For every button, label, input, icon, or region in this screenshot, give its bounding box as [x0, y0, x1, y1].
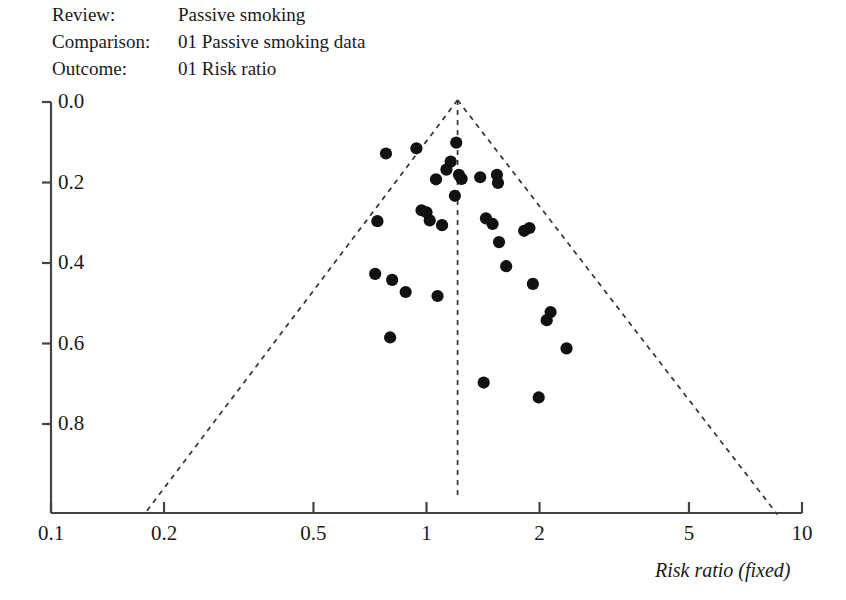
data-point: [450, 137, 462, 149]
x-tick-label: 0.2: [151, 523, 177, 544]
scatter-plot-area: 0.00.20.40.60.8 0.10.20.512510 Risk rati…: [0, 0, 846, 600]
data-point: [449, 190, 461, 202]
data-point: [474, 171, 486, 183]
data-point: [493, 236, 505, 248]
x-tick-label: 10: [792, 523, 813, 544]
data-point: [431, 290, 443, 302]
funnel-guide-lines: [144, 100, 777, 515]
data-point: [440, 164, 452, 176]
data-point: [527, 278, 539, 290]
data-point: [436, 219, 448, 231]
data-point: [560, 342, 572, 354]
data-point: [384, 331, 396, 343]
data-point: [386, 274, 398, 286]
x-axis-title: Risk ratio (fixed): [655, 559, 791, 582]
data-point: [455, 173, 467, 185]
data-point: [400, 286, 412, 298]
data-point: [487, 218, 499, 230]
data-point: [380, 147, 392, 159]
data-point: [410, 142, 422, 154]
y-tick-label: 0.6: [58, 333, 84, 354]
data-point: [500, 260, 512, 272]
data-point: [541, 314, 553, 326]
data-point: [424, 214, 436, 226]
data-point: [371, 215, 383, 227]
data-point: [523, 222, 535, 234]
plot-canvas: [0, 0, 846, 600]
data-point: [478, 376, 490, 388]
funnel-plot-figure: Review: Passive smoking Comparison: 01 P…: [0, 0, 846, 600]
data-point: [492, 177, 504, 189]
x-tick-label: 2: [534, 523, 545, 544]
data-point: [369, 268, 381, 280]
y-tick-label: 0.0: [58, 91, 84, 112]
x-tick-label: 1: [421, 523, 432, 544]
data-point: [533, 391, 545, 403]
y-tick-label: 0.4: [58, 252, 84, 273]
data-point-layer: [369, 137, 573, 404]
y-tick-label: 0.2: [58, 172, 84, 193]
data-point: [430, 173, 442, 185]
x-tick-label: 0.1: [38, 523, 64, 544]
plot-axes: [42, 102, 802, 513]
x-tick-label: 0.5: [300, 523, 326, 544]
x-tick-label: 5: [684, 523, 695, 544]
y-tick-label: 0.8: [58, 413, 84, 434]
